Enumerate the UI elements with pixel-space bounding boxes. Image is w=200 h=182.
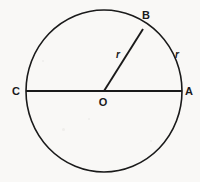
circle-diagram-canvas — [0, 0, 200, 182]
label-point-a: A — [185, 86, 193, 97]
label-radius-outer: r — [175, 50, 179, 60]
label-point-b: B — [142, 10, 150, 21]
label-point-c: C — [12, 86, 20, 97]
radius-line-ob — [104, 29, 143, 91]
scan-speckle — [88, 118, 90, 120]
scan-speckle — [150, 140, 152, 142]
geometry-figure: B r r C O A — [0, 0, 200, 182]
scan-speckle — [62, 128, 65, 131]
label-radius-inner: r — [116, 50, 120, 60]
label-point-o: O — [99, 97, 108, 108]
scan-speckle — [42, 60, 44, 62]
